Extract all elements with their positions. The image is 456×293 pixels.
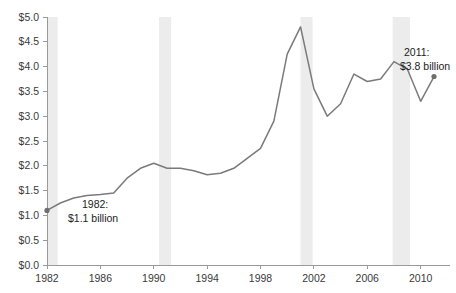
x-axis-tick-label: 1990 <box>142 272 166 284</box>
data-point-markers <box>44 74 436 213</box>
x-axis-tick-label: 2002 <box>302 272 326 284</box>
x-axis-tick-label: 2010 <box>409 272 433 284</box>
start-annotation-line2: $1.1 billion <box>68 212 118 224</box>
x-axis-tick-label: 1986 <box>89 272 113 284</box>
data-point-marker <box>44 208 49 213</box>
recession-band <box>47 17 58 265</box>
y-axis-tick-label: $2.0 <box>19 159 40 171</box>
recession-band-group <box>47 17 410 265</box>
x-axis-tick-label: 1994 <box>195 272 219 284</box>
recession-band <box>159 17 171 265</box>
end-annotation-line1: 2011: <box>404 46 430 58</box>
y-axis-tick-label: $1.0 <box>19 209 40 221</box>
y-axis-tick-label: $1.5 <box>19 184 40 196</box>
y-axis-tick-label: $3.0 <box>19 110 40 122</box>
line-chart: $0.0$0.5$1.0$1.5$2.0$2.5$3.0$3.5$4.0$4.5… <box>0 0 456 293</box>
y-axis-tick-label: $5.0 <box>19 11 40 23</box>
y-axis-tick-label: $2.5 <box>19 135 40 147</box>
y-axis-tick-label: $4.5 <box>19 35 40 47</box>
data-series-line <box>47 27 434 211</box>
x-axis-tick-marks <box>47 265 421 269</box>
x-axis-tick-label: 1998 <box>249 272 273 284</box>
y-axis-tick-label: $0.0 <box>19 259 40 271</box>
x-axis-tick-label: 2006 <box>356 272 380 284</box>
x-axis-labels: 19821986199019941998200220062010 <box>35 272 432 284</box>
y-axis-tick-label: $0.5 <box>19 234 40 246</box>
chart-canvas: $0.0$0.5$1.0$1.5$2.0$2.5$3.0$3.5$4.0$4.5… <box>0 0 456 293</box>
y-axis-tick-marks <box>43 17 47 265</box>
start-annotation-line1: 1982: <box>82 198 108 210</box>
y-axis-labels: $0.0$0.5$1.0$1.5$2.0$2.5$3.0$3.5$4.0$4.5… <box>19 11 40 271</box>
y-axis-tick-label: $3.5 <box>19 85 40 97</box>
y-axis-tick-label: $4.0 <box>19 60 40 72</box>
x-axis-tick-label: 1982 <box>35 272 59 284</box>
start-annotation: 1982: $1.1 billion <box>68 198 118 224</box>
data-point-marker <box>431 74 436 79</box>
end-annotation-line2: $3.8 billion <box>400 60 450 72</box>
